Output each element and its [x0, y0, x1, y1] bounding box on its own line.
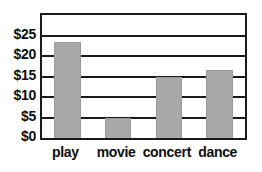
x-tick-label-concert: concert [143, 144, 191, 160]
bar-play [54, 42, 80, 138]
gridline [42, 35, 245, 37]
y-tick-label: $5 [21, 109, 36, 123]
x-axis: playmovieconcertdance [40, 144, 247, 166]
bar-movie [105, 118, 131, 139]
y-axis: $0$5$10$15$20$25 [0, 0, 38, 172]
y-tick-label: $10 [14, 88, 36, 102]
x-tick-label-dance: dance [198, 144, 237, 160]
y-tick-label: $15 [14, 68, 36, 82]
bar-concert [156, 77, 182, 139]
x-tick-label-play: play [52, 144, 79, 160]
bar-dance [206, 70, 232, 138]
plot-area [40, 13, 247, 140]
y-tick-label: $25 [14, 27, 36, 41]
plot-inner [42, 15, 245, 138]
y-tick-label: $0 [21, 129, 36, 143]
bar-chart: $0$5$10$15$20$25 playmovieconcertdance [0, 0, 262, 172]
x-tick-label-movie: movie [97, 144, 136, 160]
y-tick-label: $20 [14, 47, 36, 61]
